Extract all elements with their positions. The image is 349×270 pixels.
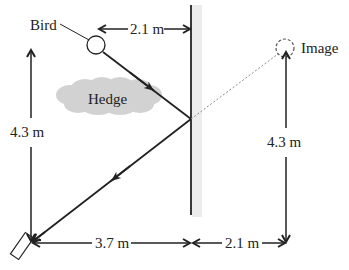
bottom-right-distance-label: 2.1 m — [225, 235, 260, 251]
bird-leader-line — [60, 24, 89, 40]
reflection-diagram: Hedge Bird Image 2.1 m 4.3 m 4.3 m 3.7 m… — [0, 0, 349, 270]
left-height-label: 4.3 m — [10, 124, 45, 140]
camera — [10, 232, 33, 259]
top-distance-label: 2.1 m — [130, 21, 165, 37]
bird-circle — [87, 36, 105, 54]
reflected-ray-end-arrow-icon — [33, 232, 45, 241]
hedge-label: Hedge — [88, 91, 127, 107]
image-circle — [276, 39, 294, 57]
reflected-ray-arrow-icon — [111, 166, 130, 181]
image-label: Image — [301, 40, 339, 56]
mirror-backing — [192, 5, 202, 217]
virtual-ray — [191, 54, 278, 119]
bottom-left-distance-label: 3.7 m — [95, 235, 130, 251]
right-height-label: 4.3 m — [267, 134, 302, 150]
bird-label: Bird — [30, 17, 57, 33]
